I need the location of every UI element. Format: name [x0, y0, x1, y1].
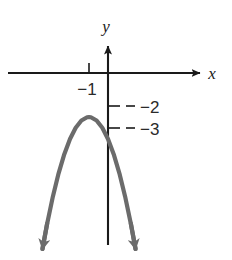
graph-figure: x y −1 −2 −3: [0, 0, 232, 260]
parabola-plot: x y −1 −2 −3: [0, 0, 232, 260]
parabola-curve: [42, 117, 135, 249]
x-axis-label: x: [207, 64, 216, 83]
x-tick-label-minus-1: −1: [77, 80, 96, 99]
curve-right-arrow: [131, 223, 136, 249]
curve-left-arrow: [42, 223, 47, 249]
y-tick-label-minus-2: −2: [140, 98, 159, 117]
y-tick-label-minus-3: −3: [140, 120, 159, 139]
y-axis-label: y: [100, 17, 110, 36]
